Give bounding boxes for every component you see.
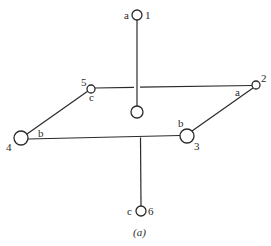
port-label-4: b: [38, 127, 44, 139]
port-label-2: a: [235, 86, 240, 98]
graph-diagram: 1 2 3 4 5 6 a a b b c c (a): [0, 0, 271, 246]
node-3-label: 3: [194, 140, 200, 152]
node-4-label: 4: [6, 141, 12, 153]
port-label-3: b: [178, 117, 184, 129]
port-label-6: c: [127, 205, 132, 217]
node-2-label: 2: [261, 72, 267, 84]
node-6: [136, 206, 146, 216]
edge-5-2-left: [95, 87, 134, 88]
node-1: [132, 10, 142, 20]
port-label-1: a: [124, 9, 129, 21]
node-5-label: 5: [81, 76, 87, 88]
edge-4-5: [27, 91, 88, 134]
edge-4-3: [28, 136, 180, 140]
node-4: [14, 131, 28, 145]
node-2: [252, 81, 260, 89]
node-6-label: 6: [148, 205, 154, 217]
figure-caption: (a): [133, 226, 146, 239]
node-1-label: 1: [145, 9, 151, 21]
node-3: [180, 129, 194, 143]
port-label-5: c: [89, 91, 94, 103]
edge-3-2: [192, 88, 253, 131]
edge-43-6: [141, 138, 142, 207]
node-center: [131, 106, 143, 118]
